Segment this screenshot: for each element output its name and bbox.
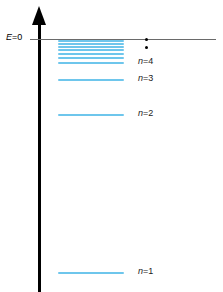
energy-level-n3: [58, 79, 124, 81]
continuation-dot-1: [145, 38, 148, 41]
n-value-4: =4: [143, 56, 153, 66]
zero-energy-label: E=0: [6, 32, 22, 42]
energy-level-n9: [58, 43, 124, 45]
energy-level-n8: [58, 46, 124, 48]
energy-level-label-n2: n=2: [138, 108, 153, 118]
energy-level-n4: [58, 62, 124, 64]
energy-level-n10: [58, 40, 124, 42]
n-value-2: =2: [143, 108, 153, 118]
energy-level-n7: [58, 49, 124, 51]
energy-level-n5: [58, 57, 124, 59]
energy-level-n2: [58, 114, 124, 116]
continuation-dot-2: [145, 46, 148, 49]
energy-level-label-n4: n=4: [138, 56, 153, 66]
zero-energy-label-text: =0: [12, 32, 22, 42]
energy-level-n1: [58, 272, 124, 274]
n-value-1: =1: [143, 266, 153, 276]
energy-level-label-n1: n=1: [138, 266, 153, 276]
energy-level-diagram: E=0 n=4 n=3 n=2 n=1: [0, 0, 223, 292]
energy-axis-line: [38, 22, 41, 292]
n-value-3: =3: [143, 73, 153, 83]
energy-level-n6: [58, 53, 124, 55]
energy-level-label-n3: n=3: [138, 73, 153, 83]
